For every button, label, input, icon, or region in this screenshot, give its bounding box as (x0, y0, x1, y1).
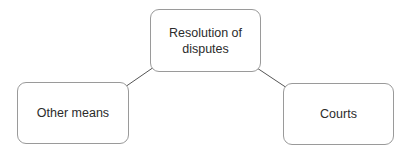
node-label: Other means (37, 105, 109, 121)
edge-root-to-courts (257, 68, 287, 88)
edge-root-to-other-means (125, 67, 154, 87)
node-label-line2: disputes (182, 41, 229, 57)
node-courts: Courts (283, 83, 394, 145)
node-label: Courts (320, 106, 357, 122)
node-resolution-of-disputes: Resolution of disputes (150, 9, 261, 72)
node-label-line1: Resolution of (169, 25, 242, 41)
diagram-canvas: Resolution of disputes Other means Court… (0, 0, 411, 152)
node-other-means: Other means (17, 82, 129, 144)
